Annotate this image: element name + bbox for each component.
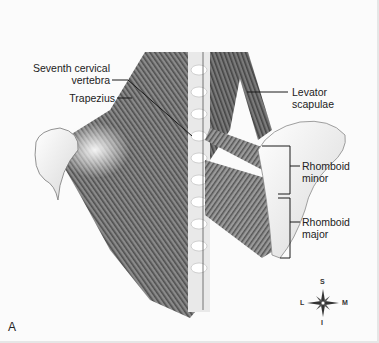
- label-trapezius: Trapezius: [40, 92, 115, 104]
- compass-rose-icon: [307, 289, 339, 317]
- label-levator-scapulae: Levator scapulae: [292, 86, 334, 110]
- label-rhomboid-minor: Rhomboid minor: [302, 160, 350, 184]
- compass-inferior: I: [321, 319, 323, 326]
- levator-scapulae-muscle: [232, 52, 272, 140]
- anatomy-figure: Seventh cervical vertebra Trapezius Leva…: [0, 0, 379, 343]
- label-seventh-cervical-vertebra: Seventh cervical vertebra: [20, 62, 110, 86]
- compass-superior: S: [320, 278, 325, 285]
- compass-medial: M: [342, 299, 348, 306]
- label-rhomboid-major: Rhomboid major: [302, 216, 350, 240]
- panel-label: A: [8, 320, 16, 334]
- compass-lateral: L: [300, 299, 304, 306]
